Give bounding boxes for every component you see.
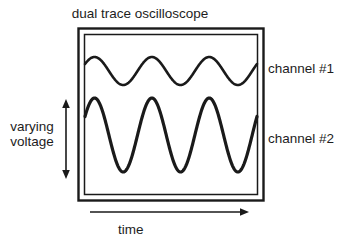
channel-1-label: channel #1 <box>268 61 334 76</box>
voltage-axis-arrow <box>62 99 70 179</box>
voltage-axis-label-line2: voltage <box>10 134 54 149</box>
voltage-axis-label-line1: varying <box>10 119 54 134</box>
oscilloscope-screen <box>85 35 258 195</box>
time-axis-label: time <box>118 222 144 237</box>
voltage-axis-label: varying voltage <box>3 119 61 149</box>
oscilloscope-diagram: dual trace oscilloscope channel #1 chann… <box>0 0 351 243</box>
channel-2-label: channel #2 <box>268 131 334 146</box>
time-axis-arrow <box>90 208 249 216</box>
diagram-title: dual trace oscilloscope <box>0 6 280 21</box>
